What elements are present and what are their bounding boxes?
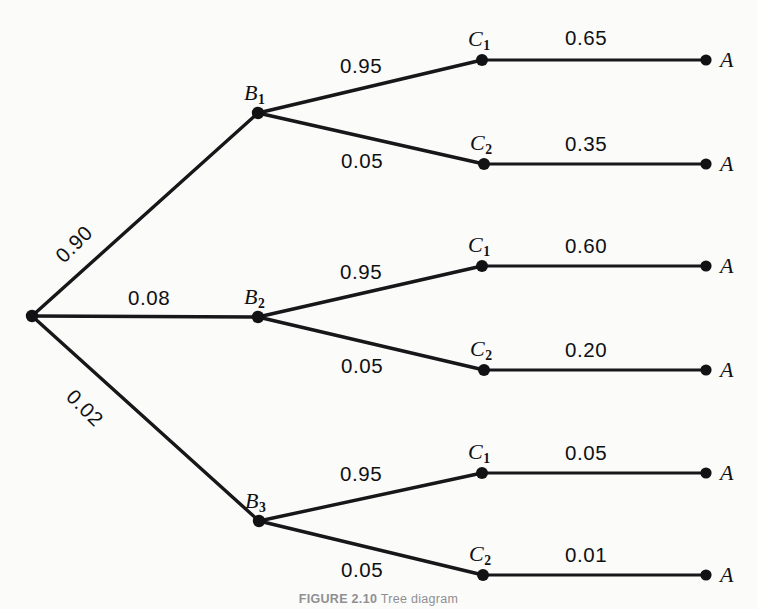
node-dot-c2a bbox=[478, 158, 490, 170]
edge-label-c1b-a: 0.60 bbox=[565, 236, 607, 257]
node-dot-a3 bbox=[700, 260, 711, 271]
node-label-c1b: C1 bbox=[468, 234, 490, 256]
edge-label-root-b2: 0.08 bbox=[128, 288, 170, 309]
node-label-a2: A bbox=[720, 153, 733, 175]
node-dot-c1c bbox=[476, 467, 488, 479]
node-label-c1c-letter: C bbox=[468, 439, 483, 464]
node-dot-c1a bbox=[476, 54, 488, 66]
edge-label-b3-c1: 0.95 bbox=[340, 464, 382, 485]
edge-label-b2-c2: 0.05 bbox=[341, 356, 383, 377]
node-label-c1c-sub: 1 bbox=[483, 451, 490, 466]
node-label-a1: A bbox=[720, 49, 733, 71]
node-dot-root bbox=[26, 310, 38, 322]
node-label-c2a-letter: C bbox=[470, 130, 485, 155]
figure-caption-number: FIGURE 2.10 bbox=[299, 592, 377, 606]
node-label-c2b: C2 bbox=[470, 338, 492, 360]
node-label-b2-letter: B bbox=[244, 284, 257, 309]
node-label-c2b-sub: 2 bbox=[485, 348, 492, 363]
tree-diagram-figure: 0.90 0.08 0.02 0.95 0.05 0.95 0.05 0.95 … bbox=[0, 0, 757, 609]
node-dot-a4 bbox=[700, 364, 711, 375]
edge-root-b3 bbox=[32, 316, 259, 521]
node-label-c1b-sub: 1 bbox=[483, 244, 490, 259]
edge-label-c1c-a: 0.05 bbox=[565, 443, 607, 464]
node-dot-a6 bbox=[700, 569, 711, 580]
node-label-c2c: C2 bbox=[469, 543, 491, 565]
node-label-a5: A bbox=[720, 462, 733, 484]
node-dot-b2 bbox=[252, 311, 264, 323]
node-label-a3: A bbox=[720, 255, 733, 277]
edge-label-c1a-a: 0.65 bbox=[565, 28, 607, 49]
node-label-c1b-letter: C bbox=[468, 232, 483, 257]
node-label-b2-sub: 2 bbox=[258, 296, 265, 311]
node-dot-a2 bbox=[700, 158, 711, 169]
figure-caption: FIGURE 2.10 Tree diagram bbox=[0, 592, 757, 609]
node-label-c1a-sub: 1 bbox=[483, 38, 490, 53]
node-dot-a5 bbox=[700, 467, 711, 478]
node-label-a6: A bbox=[720, 564, 733, 586]
node-label-b3-letter: B bbox=[245, 488, 258, 513]
node-label-c1a: C1 bbox=[468, 28, 490, 50]
node-label-c2a-sub: 2 bbox=[485, 142, 492, 157]
node-label-b1-sub: 1 bbox=[258, 92, 265, 107]
node-dot-a1 bbox=[700, 54, 711, 65]
node-label-b3: B3 bbox=[245, 490, 265, 512]
node-label-c2c-sub: 2 bbox=[484, 553, 491, 568]
node-label-a4: A bbox=[720, 359, 733, 381]
edge-label-b1-c1: 0.95 bbox=[340, 56, 382, 77]
figure-caption-text: Tree diagram bbox=[381, 592, 458, 606]
node-label-c1c: C1 bbox=[468, 441, 490, 463]
node-dot-b1 bbox=[252, 107, 264, 119]
node-dot-c2b bbox=[478, 364, 490, 376]
edge-root-b2 bbox=[32, 316, 258, 317]
node-label-c1a-letter: C bbox=[468, 26, 483, 51]
tree-diagram-canvas bbox=[0, 0, 757, 609]
node-label-c2a: C2 bbox=[470, 132, 492, 154]
edge-label-c2b-a: 0.20 bbox=[565, 340, 607, 361]
edge-label-c2c-a: 0.01 bbox=[565, 545, 607, 566]
edge-label-b3-c2: 0.05 bbox=[341, 560, 383, 581]
edge-label-b1-c2: 0.05 bbox=[341, 151, 383, 172]
edge-label-c2a-a: 0.35 bbox=[565, 134, 607, 155]
node-label-b1-letter: B bbox=[244, 80, 257, 105]
node-label-b2: B2 bbox=[244, 286, 264, 308]
edge-label-b2-c1: 0.95 bbox=[340, 262, 382, 283]
node-label-b1: B1 bbox=[244, 82, 264, 104]
node-dot-c2c bbox=[477, 569, 489, 581]
node-label-c2b-letter: C bbox=[470, 336, 485, 361]
node-label-c2c-letter: C bbox=[469, 541, 484, 566]
node-dot-c1b bbox=[476, 260, 488, 272]
node-dot-b3 bbox=[253, 515, 265, 527]
node-label-b3-sub: 3 bbox=[259, 500, 266, 515]
